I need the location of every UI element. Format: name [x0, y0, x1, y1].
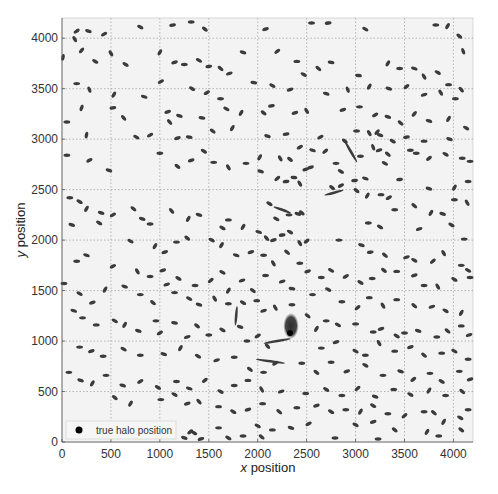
- legend-label: true halo position: [96, 425, 172, 436]
- x-tick-label: 2000: [244, 447, 271, 461]
- y-axis-label: y position: [13, 203, 28, 259]
- galaxy-ellipse: [353, 129, 360, 132]
- y-tick-label: 3500: [31, 82, 58, 96]
- galaxy-ellipse: [459, 157, 466, 160]
- galaxy-ellipse: [465, 408, 472, 411]
- galaxy-ellipse: [435, 434, 442, 437]
- galaxy-ellipse: [147, 222, 154, 225]
- x-tick-label: 3000: [342, 447, 369, 461]
- galaxy-ellipse: [79, 316, 86, 319]
- galaxy-ellipse: [260, 371, 267, 374]
- y-tick-label: 1000: [31, 334, 58, 348]
- y-tick-labels: 05001000150020002500300035004000: [31, 31, 65, 449]
- galaxy-ellipse: [244, 339, 251, 342]
- halo-position-marker-icon: [287, 330, 293, 336]
- galaxy-ellipse: [380, 374, 387, 377]
- galaxy-ellipse: [332, 436, 339, 439]
- galaxy-ellipse: [366, 296, 373, 299]
- galaxy-ellipse: [413, 152, 420, 155]
- galaxy-ellipse: [336, 238, 343, 241]
- galaxy-ellipse: [293, 60, 300, 63]
- galaxy-ellipse: [396, 67, 403, 70]
- galaxy-ellipse: [458, 264, 465, 267]
- galaxy-ellipse: [308, 21, 315, 24]
- legend-halo-marker-icon: [76, 427, 83, 434]
- galaxy-ellipse: [137, 353, 144, 356]
- x-tick-label: 1500: [195, 447, 222, 461]
- galaxy-ellipse: [153, 319, 160, 322]
- galaxy-ellipse: [365, 221, 372, 224]
- galaxy-ellipse: [63, 154, 70, 157]
- galaxy-ellipse: [289, 303, 296, 306]
- galaxy-ellipse: [296, 262, 303, 265]
- galaxy-ellipse: [269, 428, 276, 431]
- galaxy-ellipse: [181, 63, 188, 66]
- y-tick-label: 0: [51, 435, 58, 449]
- galaxy-ellipse: [318, 346, 325, 349]
- galaxy-ellipse: [393, 270, 400, 273]
- galaxy-ellipse: [375, 437, 382, 440]
- galaxy-ellipse: [432, 23, 439, 26]
- galaxy-ellipse: [421, 139, 428, 142]
- y-tick-label: 2000: [31, 233, 58, 247]
- scatter-chart: 05001000150020002500300035004000 0500100…: [0, 0, 498, 494]
- galaxy-ellipse: [188, 20, 195, 23]
- galaxy-ellipse: [215, 405, 222, 408]
- x-tick-label: 500: [101, 447, 121, 461]
- galaxy-ellipse: [401, 331, 408, 334]
- galaxy-ellipse: [318, 276, 325, 279]
- galaxy-ellipse: [438, 351, 445, 354]
- galaxy-ellipse: [456, 370, 463, 373]
- galaxy-ellipse: [407, 149, 414, 152]
- x-tick-label: 2500: [293, 447, 320, 461]
- galaxy-ellipse: [442, 394, 449, 397]
- galaxy-ellipse: [61, 282, 68, 285]
- galaxy-ellipse: [253, 299, 260, 302]
- galaxy-ellipse: [445, 83, 452, 86]
- galaxy-ellipse: [433, 335, 440, 338]
- galaxy-ellipse: [171, 291, 178, 294]
- x-axis-label: x position: [240, 460, 296, 475]
- galaxy-ellipse: [259, 402, 266, 405]
- galaxy-ellipse: [309, 293, 316, 296]
- galaxy-ellipse: [225, 302, 232, 305]
- galaxy-ellipse: [427, 372, 434, 375]
- galaxy-ellipse: [333, 162, 340, 165]
- galaxy-ellipse: [421, 410, 428, 413]
- galaxy-ellipse: [260, 254, 267, 257]
- galaxy-ellipse: [156, 152, 163, 155]
- galaxy-ellipse: [73, 260, 80, 263]
- galaxy-ellipse: [323, 319, 330, 322]
- galaxy-ellipse: [73, 82, 80, 85]
- galaxy-ellipse: [157, 398, 164, 401]
- galaxy-ellipse: [65, 371, 72, 374]
- x-tick-label: 3500: [391, 447, 418, 461]
- galaxy-ellipse: [461, 237, 468, 240]
- galaxy-ellipse: [63, 120, 70, 123]
- galaxy-ellipse: [100, 354, 107, 357]
- galaxy-ellipse: [231, 384, 238, 387]
- galaxy-ellipse: [240, 434, 247, 437]
- galaxy-ellipse: [173, 240, 180, 243]
- galaxy-ellipse: [362, 353, 369, 356]
- galaxy-ellipse: [465, 358, 472, 361]
- galaxy-ellipse: [369, 277, 376, 280]
- galaxy-ellipse: [225, 218, 232, 221]
- y-tick-label: 3000: [31, 132, 58, 146]
- galaxy-ellipse: [147, 275, 154, 278]
- galaxy-ellipse: [245, 379, 252, 382]
- galaxy-ellipse: [76, 345, 83, 348]
- y-tick-label: 500: [38, 385, 58, 399]
- galaxy-ellipse: [357, 155, 364, 158]
- galaxy-ellipse: [452, 97, 459, 100]
- galaxy-ellipse: [137, 293, 144, 296]
- x-tick-label: 0: [59, 447, 66, 461]
- galaxy-ellipse: [391, 208, 398, 211]
- galaxy-ellipse: [391, 349, 398, 352]
- y-tick-label: 4000: [31, 31, 58, 45]
- galaxy-ellipse: [215, 426, 222, 429]
- galaxy-ellipse: [66, 196, 73, 199]
- galaxy-ellipse: [352, 322, 359, 325]
- galaxy-ellipse: [217, 97, 224, 100]
- galaxy-ellipse: [338, 300, 345, 303]
